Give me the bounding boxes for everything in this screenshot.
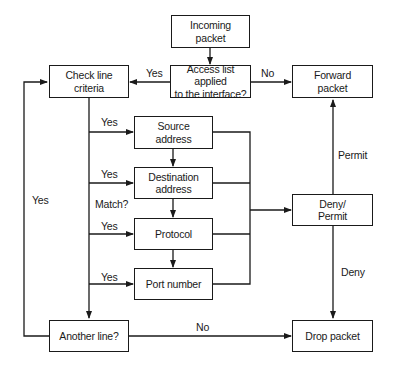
drop-packet-node: Drop packet [292,320,373,352]
destination-address-node: Destination address [134,167,213,199]
access-list-node: Access list applied to the interface? [170,65,251,98]
drop-packet-label: Drop packet [305,330,359,343]
check-line-criteria-node: Check line criteria [49,65,129,98]
deny-permit-label: Deny/ Permit [318,198,347,223]
another-line-label: Another line? [59,330,118,343]
deny-permit-node: Deny/ Permit [292,194,373,226]
edge-label-loop-yes: Yes [32,194,49,206]
edge-label-permit: Permit [338,149,367,161]
acl-flowchart: Incoming packet Access list applied to t… [0,0,395,374]
check-line-label: Check line criteria [65,69,112,94]
destination-address-label: Destination address [148,171,198,196]
edge-label-source-yes: Yes [101,116,118,128]
source-address-label: Source address [156,120,192,145]
edge-label-access-no: No [261,67,274,79]
forward-packet-label: Forward packet [314,69,351,94]
protocol-label: Protocol [155,228,192,241]
edge-label-match: Match? [95,198,128,210]
port-number-node: Port number [134,268,213,300]
edge-label-deny: Deny [341,266,365,278]
incoming-packet-node: Incoming packet [171,15,250,48]
protocol-node: Protocol [134,218,213,250]
edge-label-port-yes: Yes [101,271,118,283]
forward-packet-node: Forward packet [292,65,373,98]
source-address-node: Source address [134,116,213,149]
edge-label-protocol-yes: Yes [101,220,118,232]
port-number-label: Port number [146,278,202,291]
edge-label-another-no: No [196,321,209,333]
edge-label-access-yes: Yes [146,67,163,79]
access-list-label: Access list applied to the interface? [171,63,250,101]
incoming-packet-label: Incoming packet [190,19,231,44]
another-line-node: Another line? [49,320,129,352]
edge-label-destination-yes: Yes [101,168,118,180]
